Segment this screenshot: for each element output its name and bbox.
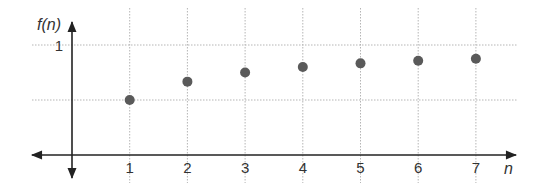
data-point [356,58,366,68]
grid [32,8,518,183]
x-tick-label: 2 [183,159,191,176]
x-tick-label: 6 [414,159,422,176]
x-tick-label: 1 [126,159,134,176]
chart: f(n) n 1 1234567 [0,0,537,190]
data-point [298,62,308,72]
data-points [125,54,481,105]
x-tick-label: 3 [241,159,249,176]
x-tick-labels: 1234567 [126,159,481,176]
x-tick-label: 4 [299,159,307,176]
x-axis-label: n [504,160,513,177]
x-tick-label: 7 [472,159,480,176]
data-point [413,56,423,66]
data-point [182,77,192,87]
data-point [471,54,481,64]
x-tick-label: 5 [356,159,364,176]
data-point [240,68,250,78]
data-point [125,95,135,105]
y-axis-label: f(n) [37,16,61,33]
y-tick-label-1: 1 [55,37,63,54]
